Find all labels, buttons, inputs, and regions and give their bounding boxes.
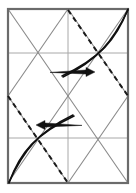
crease-pattern-svg <box>0 0 136 193</box>
diagram-canvas <box>0 0 136 193</box>
